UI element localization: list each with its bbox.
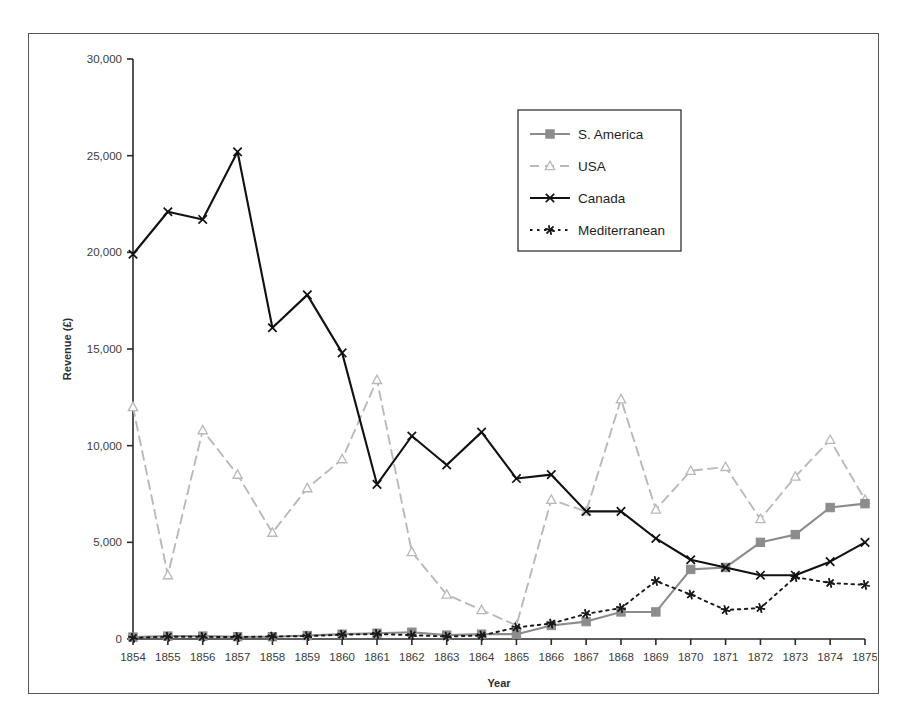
data-point [861,538,869,546]
data-point [477,428,485,436]
data-point [826,557,834,565]
data-point [372,375,381,383]
x-axis-tick-label: 1870 [678,651,704,663]
data-point [547,495,556,503]
series-line [133,380,865,626]
data-point [128,402,137,410]
data-point [477,605,486,613]
x-axis-tick-label: 1862 [399,651,425,663]
x-axis-tick-label: 1857 [225,651,251,663]
data-point [651,576,660,585]
x-axis-tick-label: 1874 [817,651,843,663]
x-axis-tick-label: 1865 [504,651,530,663]
y-axis-title: Revenue (£) [61,317,73,380]
legend-marker-square-icon [546,130,554,138]
data-point [721,462,730,470]
x-axis-title: Year [487,677,511,689]
y-axis-tick-label: 10,000 [87,440,122,452]
x-axis-tick-label: 1859 [294,651,320,663]
data-point [303,483,312,491]
legend-label: Mediterranean [578,223,665,238]
x-axis-tick-label: 1869 [643,651,669,663]
figure-frame: 05,00010,00015,00020,00025,00030,000Reve… [28,33,879,694]
x-axis-tick-label: 1860 [329,651,355,663]
data-point [687,565,695,573]
data-point [826,435,835,443]
chart-legend: S. AmericaUSACanadaMediterranean [518,110,681,251]
y-axis-tick-label: 0 [116,633,122,645]
x-axis-tick-label: 1858 [260,651,286,663]
data-point [303,291,311,299]
data-point [616,394,625,402]
series-usa [128,375,869,629]
y-axis-tick-label: 5,000 [93,536,122,548]
data-point [686,590,695,599]
data-point [651,505,660,513]
x-axis-tick-label: 1875 [852,651,877,663]
y-axis-tick-label: 15,000 [87,343,122,355]
data-point [756,538,764,546]
x-axis-tick-label: 1863 [434,651,460,663]
y-axis-tick-label: 30,000 [87,53,122,65]
legend-label: USA [578,159,606,174]
x-axis-tick-label: 1866 [538,651,564,663]
series-line [133,152,865,575]
x-axis-tick-label: 1864 [469,651,495,663]
y-axis-tick-label: 20,000 [87,246,122,258]
data-point [652,534,660,542]
x-axis-tick-label: 1868 [608,651,634,663]
figure-caption [28,700,879,727]
y-axis-tick-label: 25,000 [87,150,122,162]
revenue-line-chart: 05,00010,00015,00020,00025,00030,000Reve… [29,34,877,692]
x-axis-tick-label: 1855 [155,651,181,663]
legend-label: S. America [578,127,644,142]
data-point [198,425,207,433]
series-line [133,577,865,638]
x-axis-tick-label: 1854 [120,651,146,663]
data-point [721,605,730,614]
data-point [756,603,765,612]
data-point [408,432,416,440]
data-point [163,570,172,578]
legend-label: Canada [578,191,626,206]
x-axis-tick-label: 1872 [748,651,774,663]
x-axis-tick-label: 1861 [364,651,390,663]
data-point [861,499,869,507]
data-point [338,454,347,462]
x-axis-tick-label: 1867 [573,651,599,663]
data-point [791,530,799,538]
data-point [582,617,590,625]
x-axis-tick-label: 1873 [782,651,808,663]
data-point [233,470,242,478]
x-axis-tick-label: 1856 [190,651,216,663]
data-point [407,547,416,555]
x-axis-tick-label: 1871 [713,651,739,663]
data-point [443,461,451,469]
data-point [652,608,660,616]
data-point [826,503,834,511]
figure-page: 05,00010,00015,00020,00025,00030,000Reve… [0,0,908,727]
